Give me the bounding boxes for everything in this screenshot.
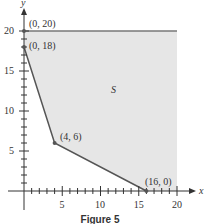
vertex-point [22,45,26,49]
x-tick-label: 15 [134,199,144,210]
x-axis-label: x [198,185,204,196]
x-tick-label: 20 [172,199,182,210]
vertex-label: (0, 20) [29,18,56,30]
x-tick-label: 5 [60,199,65,210]
y-tick-label: 15 [4,65,14,76]
y-axis-arrow-icon [21,8,27,15]
y-axis-label: y [20,0,26,8]
vertex-label: (4, 6) [60,131,82,143]
feasible-region-chart: 5 10 15 20 5 10 15 20 x y (0, 20) (0, 18… [0,0,208,224]
y-tick-label: 20 [4,25,14,36]
vertex-label: (0, 18) [29,40,56,52]
y-tick-label: 5 [9,145,14,156]
vertex-point [22,29,26,33]
region-label: S [111,84,116,95]
x-tick-label: 10 [95,199,105,210]
x-axis-arrow-icon [189,188,196,194]
vertex-point [53,141,57,145]
vertex-point [144,189,148,193]
y-tick-label: 10 [4,105,14,116]
vertex-label: (16, 0) [145,176,172,188]
figure-caption: Figure 5 [81,214,120,224]
